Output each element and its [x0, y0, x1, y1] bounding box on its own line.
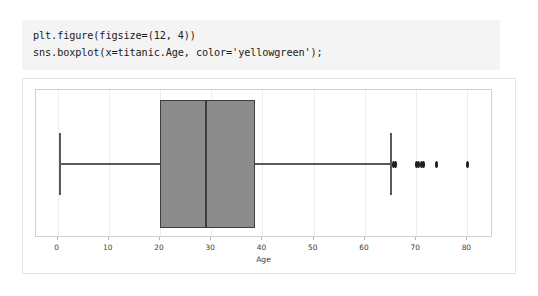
output-area: 01020304050607080 Age — [22, 78, 516, 274]
matplotlib-figure: 01020304050607080 Age — [23, 79, 515, 273]
x-tick-mark-50 — [313, 237, 314, 240]
x-tick-label-70: 70 — [410, 243, 419, 252]
whisker-cap-low — [59, 133, 61, 195]
x-tick-label-30: 30 — [206, 243, 215, 252]
x-tick-mark-70 — [415, 237, 416, 240]
x-tick-mark-80 — [466, 237, 467, 240]
x-tick-label-10: 10 — [103, 243, 112, 252]
x-tick-label-60: 60 — [359, 243, 368, 252]
code-line-2: sns.boxplot(x=titanic.Age, color='yellow… — [33, 44, 490, 61]
outlier-point — [435, 161, 438, 168]
x-tick-mark-40 — [261, 237, 262, 240]
x-tick-mark-0 — [57, 237, 58, 240]
notebook-cell: plt.figure(figsize=(12, 4)) sns.boxplot(… — [0, 0, 538, 296]
boxplot-axes — [35, 89, 492, 237]
x-tick-label-50: 50 — [308, 243, 317, 252]
x-tick-label-80: 80 — [462, 243, 471, 252]
code-input-area[interactable]: plt.figure(figsize=(12, 4)) sns.boxplot(… — [22, 20, 500, 70]
x-axis-label: Age — [256, 255, 271, 264]
outlier-point — [422, 161, 425, 168]
x-tick-mark-30 — [210, 237, 211, 240]
x-tick-label-0: 0 — [54, 243, 59, 252]
code-line-1: plt.figure(figsize=(12, 4)) — [33, 27, 490, 44]
whisker-low — [60, 163, 160, 165]
x-tick-mark-60 — [364, 237, 365, 240]
outlier-point — [394, 161, 397, 168]
x-tick-mark-20 — [159, 237, 160, 240]
box-iqr — [160, 100, 255, 228]
outlier-point — [466, 161, 469, 168]
median-line — [205, 100, 207, 228]
x-tick-mark-10 — [108, 237, 109, 240]
x-tick-label-40: 40 — [257, 243, 266, 252]
whisker-high — [255, 163, 391, 165]
x-tick-label-20: 20 — [154, 243, 163, 252]
